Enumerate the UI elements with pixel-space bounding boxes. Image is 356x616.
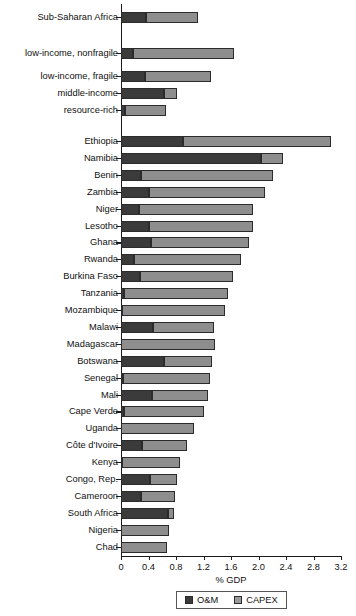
y-axis-tick — [116, 93, 121, 94]
y-axis-tick — [116, 378, 121, 379]
bar-segment-capex — [121, 339, 215, 350]
stacked-bar-chart: Sub-Saharan Africalow-income, nonfragile… — [0, 0, 356, 616]
bar-segment-capex — [168, 508, 174, 519]
y-axis-tick — [116, 242, 121, 243]
x-axis-tick-label: 2.4 — [271, 562, 301, 572]
bar-segment-om — [121, 322, 153, 333]
y-axis-tick — [116, 209, 121, 210]
category-label: Benin — [0, 170, 118, 181]
x-axis-title: % GDP — [121, 575, 341, 585]
bar-segment-capex — [150, 474, 177, 485]
y-axis-tick — [116, 462, 121, 463]
y-axis-tick — [116, 479, 121, 480]
bar-segment-capex — [133, 48, 234, 59]
y-axis-tick — [116, 76, 121, 77]
category-label: Kenya — [0, 457, 118, 468]
category-label: Madagascar — [0, 339, 118, 350]
bar-segment-om — [121, 187, 149, 198]
bar-segment-capex — [123, 373, 210, 384]
x-axis-tick-label: 1.6 — [216, 562, 246, 572]
category-label: Namibia — [0, 153, 118, 164]
category-label: Cameroon — [0, 491, 118, 502]
bar-segment-capex — [122, 305, 224, 316]
x-axis-tick-label: 0.4 — [134, 562, 164, 572]
y-axis-tick — [116, 293, 121, 294]
bar-segment-om — [121, 204, 139, 215]
bar-segment-capex — [149, 221, 253, 232]
y-axis-tick — [116, 175, 121, 176]
x-axis-tick — [341, 556, 342, 560]
bar-segment-capex — [121, 423, 194, 434]
category-label: Mozambique — [0, 305, 118, 316]
category-label: South Africa — [0, 508, 118, 519]
bar-segment-capex — [125, 105, 166, 116]
bar-segment-om — [121, 508, 168, 519]
bar-segment-capex — [124, 406, 204, 417]
bar-segment-om — [121, 136, 183, 147]
y-axis-tick — [116, 496, 121, 497]
x-axis-tick — [176, 556, 177, 560]
y-axis-tick — [116, 158, 121, 159]
bar-segment-capex — [134, 254, 241, 265]
category-label: Ethiopia — [0, 136, 118, 147]
y-axis-tick — [116, 445, 121, 446]
bar-segment-capex — [139, 204, 253, 215]
category-label: Senegal — [0, 373, 118, 384]
category-label: Congo, Rep. — [0, 474, 118, 485]
bar-segment-capex — [122, 457, 180, 468]
y-axis-tick — [116, 276, 121, 277]
y-axis-tick — [116, 310, 121, 311]
bar-segment-om — [121, 153, 261, 164]
category-label: Uganda — [0, 423, 118, 434]
category-label: Nigeria — [0, 525, 118, 536]
bar-segment-capex — [152, 390, 208, 401]
x-axis-tick — [204, 556, 205, 560]
bar-segment-om — [121, 491, 141, 502]
bar-segment-om — [121, 390, 152, 401]
y-axis-tick — [116, 395, 121, 396]
category-label: Rwanda — [0, 254, 118, 265]
bar-segment-capex — [121, 525, 169, 536]
bar-segment-om — [121, 254, 134, 265]
legend-label-capex: CAPEX — [246, 595, 278, 605]
y-axis-tick — [116, 226, 121, 227]
bar-segment-om — [121, 170, 141, 181]
category-label: Zambia — [0, 187, 118, 198]
x-axis-tick-label: 0 — [106, 562, 136, 572]
om-swatch-icon — [185, 596, 193, 604]
bar-segment-capex — [141, 491, 175, 502]
category-label: Niger — [0, 204, 118, 215]
x-axis-tick-label: 3.2 — [326, 562, 356, 572]
x-axis-tick — [314, 556, 315, 560]
y-axis-tick — [116, 547, 121, 548]
bar-segment-om — [121, 271, 140, 282]
y-axis-tick — [116, 327, 121, 328]
bar-segment-om — [121, 356, 164, 367]
bar-segment-capex — [164, 356, 211, 367]
bar-segment-capex — [151, 237, 249, 248]
bar-segment-om — [121, 221, 149, 232]
y-axis-tick — [116, 344, 121, 345]
category-label: Cape Verde — [0, 406, 118, 417]
y-axis-tick — [116, 192, 121, 193]
x-axis-tick — [259, 556, 260, 560]
bar-segment-capex — [141, 170, 273, 181]
bar-segment-capex — [164, 88, 176, 99]
y-axis-tick — [116, 17, 121, 18]
x-axis-tick-label: 0.8 — [161, 562, 191, 572]
legend-item-om: O&M — [185, 595, 218, 605]
category-label: Chad — [0, 542, 118, 553]
x-axis-tick — [121, 556, 122, 560]
bar-segment-capex — [142, 440, 187, 451]
bar-segment-capex — [124, 288, 229, 299]
x-axis-tick — [286, 556, 287, 560]
category-label: Sub-Saharan Africa — [0, 12, 118, 23]
y-axis-tick — [116, 428, 121, 429]
category-label: Botswana — [0, 356, 118, 367]
bar-segment-om — [121, 237, 151, 248]
y-axis-tick — [116, 259, 121, 260]
bar-segment-capex — [149, 187, 265, 198]
y-axis-tick — [116, 513, 121, 514]
bar-segment-capex — [153, 322, 214, 333]
y-axis-tick — [116, 530, 121, 531]
